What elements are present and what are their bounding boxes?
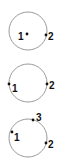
- point-label: 1: [18, 31, 24, 42]
- point-label: 3: [36, 112, 42, 123]
- point-label: 2: [49, 80, 55, 91]
- circle: [9, 12, 47, 50]
- point-2: [45, 142, 48, 145]
- point-1: [8, 83, 11, 86]
- panel-1: 1 2: [9, 12, 54, 50]
- panel-2: 1 2: [8, 64, 55, 102]
- circle-diagram: 1 2 1 2 1 3 2: [0, 0, 57, 167]
- point-label: 1: [14, 132, 20, 143]
- point-label: 2: [48, 31, 54, 42]
- point-1: [26, 33, 29, 36]
- panel-3: 1 3 2: [9, 112, 54, 157]
- point-label: 1: [12, 83, 18, 94]
- point-2: [46, 83, 49, 86]
- point-1: [11, 131, 14, 134]
- point-3: [32, 119, 35, 122]
- point-2: [45, 34, 48, 37]
- point-label: 2: [48, 139, 54, 150]
